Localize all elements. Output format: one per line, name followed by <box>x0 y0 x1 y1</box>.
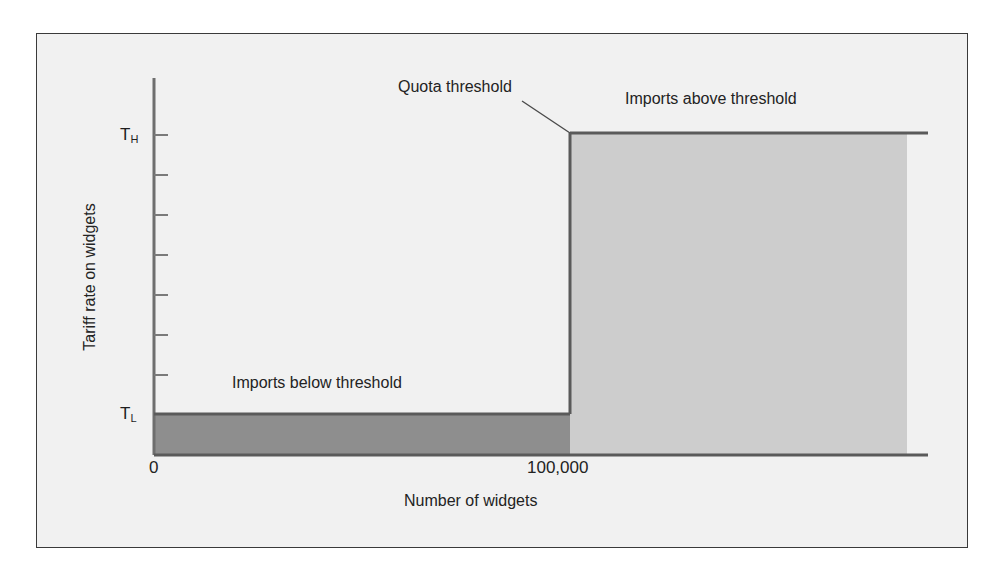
x-axis-title: Number of widgets <box>404 492 537 510</box>
annotation-quota-threshold: Quota threshold <box>398 78 512 96</box>
x-tick-label-quota: 100,000 <box>527 458 588 478</box>
chart-panel-border <box>36 33 968 548</box>
y-axis-title: Tariff rate on widgets <box>81 162 99 392</box>
y-tick-label-t-high: TH <box>120 125 138 145</box>
annotation-imports-above-threshold: Imports above threshold <box>625 90 797 108</box>
x-tick-label-zero: 0 <box>149 458 158 478</box>
annotation-imports-below-threshold: Imports below threshold <box>232 374 402 392</box>
figure-container: TH TL 0 100,000 Number of widgets Tariff… <box>0 0 1003 578</box>
y-tick-label-t-low: TL <box>120 404 137 424</box>
